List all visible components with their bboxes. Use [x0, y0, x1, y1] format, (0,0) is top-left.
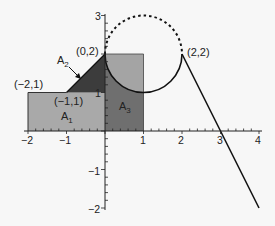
x-tick-1: 1: [140, 134, 146, 146]
label-point-2-2: (2,2): [187, 46, 210, 58]
semicircle-upper-dotted: [105, 16, 182, 54]
diagram-canvas: −2 −1 1 2 3 4 3 1 −1 −2 (−2,1) (−1,1) (0…: [0, 0, 275, 226]
label-point-neg1-1: (−1,1): [54, 95, 83, 107]
x-tick-neg1: −1: [59, 134, 71, 146]
x-tick-neg2: −2: [21, 134, 33, 146]
x-tick-4: 4: [255, 134, 261, 146]
y-tick-neg2: −2: [88, 203, 100, 215]
x-tick-2: 2: [178, 134, 184, 146]
y-tick-neg1: −1: [88, 165, 100, 177]
y-tick-3: 3: [95, 10, 101, 22]
label-point-0-2: (0,2): [76, 45, 99, 57]
label-point-neg2-1: (−2,1): [14, 78, 43, 90]
y-tick-1: 1: [95, 87, 101, 99]
arrow-icon: [69, 67, 81, 79]
x-tick-3: 3: [217, 134, 223, 146]
label-a2: A2: [57, 54, 69, 69]
